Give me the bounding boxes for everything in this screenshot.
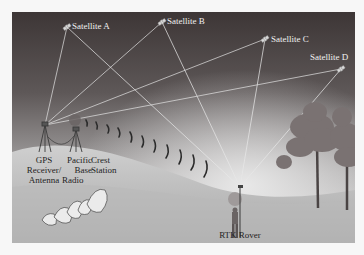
satellite-a-label: Satellite A bbox=[72, 21, 110, 31]
diagram-canvas bbox=[12, 12, 355, 243]
gps-receiver-label: GPS Receiver/ Antenna bbox=[26, 155, 62, 185]
satellite-b-label: Satellite B bbox=[167, 16, 205, 26]
rtk-diagram: Satellite A Satellite B Satellite C Sate… bbox=[12, 12, 355, 243]
satellite-c-label: Satellite C bbox=[271, 34, 309, 44]
rtk-rover-label: RTK Rover bbox=[210, 230, 270, 240]
crest-station-label: Crest Station bbox=[91, 155, 121, 175]
base-radio-label: Pacific Base Radio bbox=[60, 155, 92, 185]
satellite-d-label: Satellite D bbox=[310, 52, 348, 62]
